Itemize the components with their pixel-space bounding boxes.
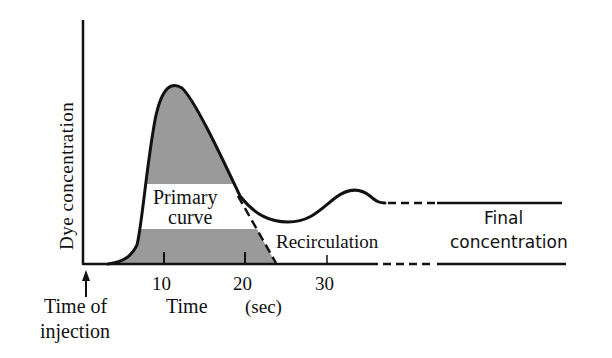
injection-arrow-icon — [82, 270, 90, 281]
primary-curve-label-line2: curve — [168, 206, 213, 228]
recirculation-label: Recirculation — [276, 231, 379, 252]
y-axis-label: Dye concentration — [56, 102, 77, 250]
tick-label-20: 20 — [233, 273, 252, 294]
x-axis-unit: (sec) — [245, 296, 282, 318]
injection-label-line1: Time of — [44, 295, 108, 317]
tick-label-10: 10 — [152, 273, 171, 294]
tick-label-30: 30 — [315, 273, 334, 294]
x-axis-label: Time — [166, 295, 208, 317]
final-concentration-label-line2: concentration — [450, 232, 568, 252]
dye-dilution-diagram: Dye concentration 10 20 30 Time (sec) Ti… — [0, 0, 612, 358]
primary-curve-fill — [100, 80, 300, 269]
final-concentration-label-line1: Final — [484, 208, 523, 228]
injection-label-line2: injection — [40, 320, 110, 343]
